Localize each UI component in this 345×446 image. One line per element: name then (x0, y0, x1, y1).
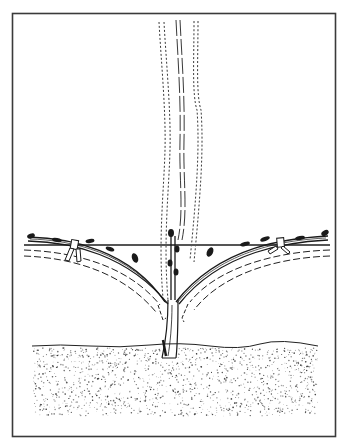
trunk-dashed-shoulders (158, 304, 188, 322)
illustration-canvas (0, 0, 345, 446)
soil (32, 341, 318, 416)
right-arm (176, 236, 328, 304)
dashed-canes (159, 20, 202, 300)
frame-border (13, 14, 336, 437)
trunk (162, 300, 178, 358)
grapevine-illustration (0, 0, 345, 446)
